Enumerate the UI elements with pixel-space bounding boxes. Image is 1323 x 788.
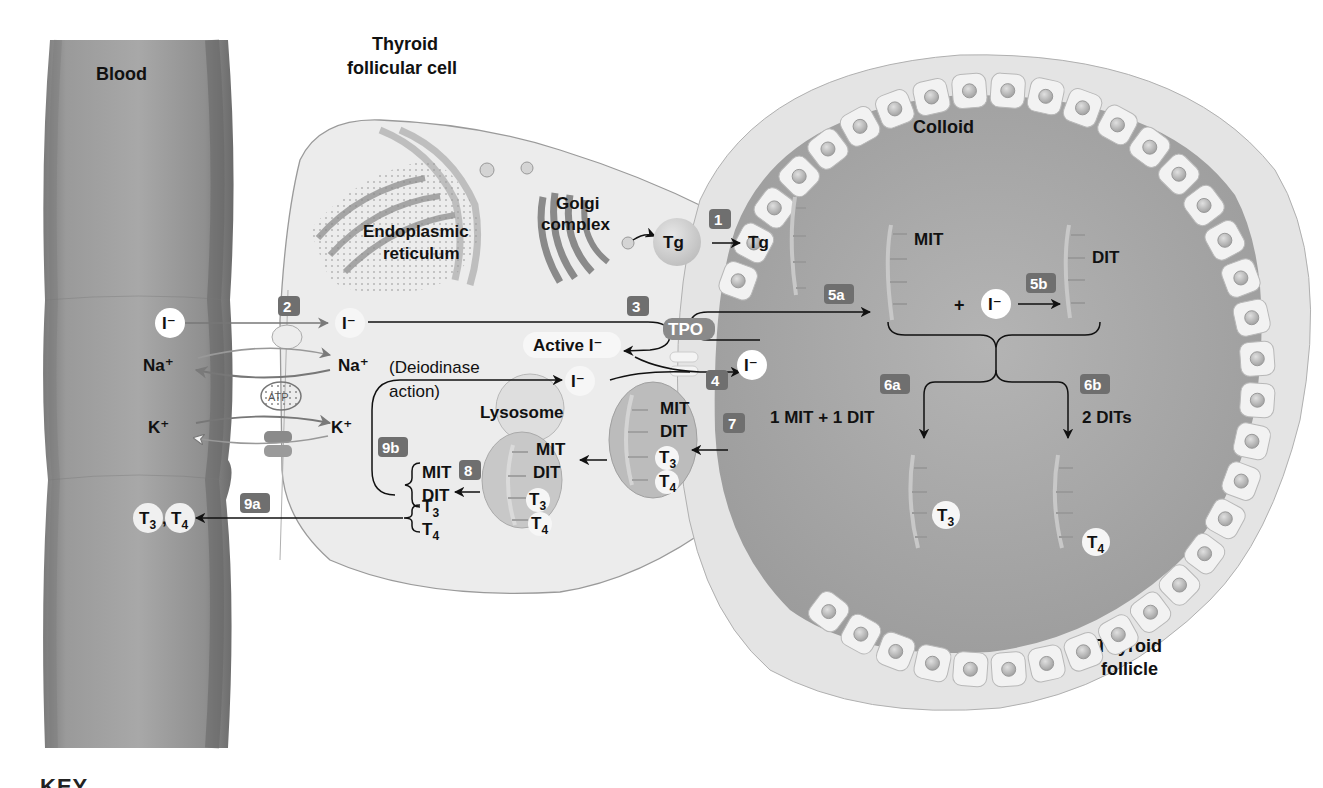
iodide-colloid: I⁻ xyxy=(744,356,758,375)
tpo-label: TPO xyxy=(668,320,703,339)
cell-nucleus xyxy=(1218,233,1232,247)
cell-nucleus xyxy=(1197,198,1211,212)
cell-nucleus xyxy=(821,142,835,156)
atp-label: ATP xyxy=(268,391,289,403)
svg-text:5b: 5b xyxy=(1030,275,1048,292)
cell-nucleus xyxy=(1250,393,1264,407)
cell-nucleus xyxy=(1218,512,1232,526)
cell-nucleus xyxy=(1110,118,1124,132)
cell-nucleus xyxy=(822,605,836,619)
iodide-blood: I⁻ xyxy=(162,314,176,333)
svg-text:1: 1 xyxy=(714,211,722,228)
blood-vessel: Blood xyxy=(43,40,233,748)
cell-nucleus xyxy=(1234,271,1248,285)
cell-nucleus xyxy=(925,90,939,104)
svg-text:2: 2 xyxy=(283,298,291,315)
dit-colloid: DIT xyxy=(1092,248,1120,267)
cell-nucleus xyxy=(1144,605,1158,619)
cell-nucleus xyxy=(731,274,745,288)
step-badge-5a: 5a xyxy=(824,284,854,304)
deiodinase-line1: (Deiodinase xyxy=(389,358,480,377)
cell-nucleus xyxy=(1245,311,1259,325)
k-channel xyxy=(264,431,292,443)
cell-nucleus xyxy=(1076,645,1090,659)
cell-title-line1: Thyroid xyxy=(372,34,438,54)
cell-nucleus xyxy=(1039,89,1053,103)
thyroid-follicle: Colloid Thyroid follicle xyxy=(678,55,1311,711)
cell-title-line2: follicular cell xyxy=(347,58,457,78)
iodide-cell: I⁻ xyxy=(342,314,356,333)
mit-colloid: MIT xyxy=(914,230,944,249)
cell-nucleus xyxy=(1111,628,1125,642)
cell-nucleus xyxy=(1040,656,1054,670)
step-badge-2: 2 xyxy=(278,296,300,316)
cell-nucleus xyxy=(854,627,868,641)
svg-text:6b: 6b xyxy=(1084,376,1102,393)
step-badge-9a: 9a xyxy=(240,493,270,513)
step-badge-6a: 6a xyxy=(880,374,910,394)
cell-nucleus xyxy=(1076,101,1090,115)
active-iodide: Active I⁻ xyxy=(533,336,602,355)
k-blood: K⁺ xyxy=(148,418,169,437)
step-badge-4: 4 xyxy=(706,370,728,390)
mit-cytoplasm: MIT xyxy=(422,463,452,482)
svg-text:3: 3 xyxy=(632,298,640,315)
colloid-label: Colloid xyxy=(913,117,974,137)
vesicle xyxy=(521,162,533,174)
cell-nucleus xyxy=(925,656,939,670)
follicle-label-line2: follicle xyxy=(1101,659,1158,679)
cell-nucleus xyxy=(889,644,903,658)
cell-nucleus xyxy=(1250,352,1264,366)
cell-nucleus xyxy=(1234,474,1248,488)
step-badge-6b: 6b xyxy=(1080,374,1110,394)
dit-lysosome: DIT xyxy=(533,463,561,482)
svg-text:4: 4 xyxy=(711,372,720,389)
lysosome-label: Lysosome xyxy=(480,403,563,422)
plus-sign: + xyxy=(954,295,965,315)
thyroid-hormone-diagram: Blood Thyroid follicular cell Endoplasmi… xyxy=(0,0,1323,788)
iodide-recycled: I⁻ xyxy=(571,372,585,391)
tg-colloid: Tg xyxy=(748,233,769,252)
cell-nucleus xyxy=(767,201,781,215)
key-header: KEY xyxy=(40,772,88,788)
cell-nucleus xyxy=(962,84,976,98)
coupling-6a-text: 1 MIT + 1 DIT xyxy=(770,408,875,427)
step-badge-5b: 5b xyxy=(1026,273,1056,293)
nis-symporter xyxy=(272,325,302,349)
mit-vesicle: MIT xyxy=(660,399,690,418)
cell-nucleus xyxy=(1198,547,1212,561)
golgi-label-line2: complex xyxy=(541,215,611,234)
svg-text:7: 7 xyxy=(728,415,736,432)
cell-nucleus xyxy=(963,662,977,676)
iodide-5b: I⁻ xyxy=(988,295,1002,314)
deiodinase-line2: action) xyxy=(389,382,440,401)
cell-nucleus xyxy=(792,169,806,183)
cell-nucleus xyxy=(853,119,867,133)
step-badge-1: 1 xyxy=(709,209,731,229)
cell-nucleus xyxy=(1172,167,1186,181)
cell-nucleus xyxy=(1001,84,1015,98)
cell-nucleus xyxy=(1002,662,1016,676)
tg-cell: Tg xyxy=(663,233,684,252)
golgi-label-line1: Golgi xyxy=(556,194,599,213)
cell-nucleus xyxy=(1143,140,1157,154)
k-cell: K⁺ xyxy=(331,418,352,437)
svg-text:6a: 6a xyxy=(884,376,901,393)
cell-nucleus xyxy=(1245,434,1259,448)
step-badge-8: 8 xyxy=(459,460,481,480)
svg-text:8: 8 xyxy=(464,462,472,479)
er-label-line1: Endoplasmic xyxy=(363,222,469,241)
na-blood: Na⁺ xyxy=(143,356,174,375)
mit-lysosome: MIT xyxy=(536,440,566,459)
svg-text:9a: 9a xyxy=(244,495,261,512)
cell-nucleus xyxy=(1173,578,1187,592)
vesicle xyxy=(480,163,494,177)
dit-vesicle: DIT xyxy=(660,422,688,441)
na-cell: Na⁺ xyxy=(338,356,369,375)
step-badge-7: 7 xyxy=(723,413,745,433)
step-badge-9b: 9b xyxy=(378,437,408,457)
er-label-line2: reticulum xyxy=(383,244,460,263)
coupling-6b-text: 2 DITs xyxy=(1082,408,1132,427)
blood-label: Blood xyxy=(96,64,147,84)
cell-nucleus xyxy=(888,102,902,116)
